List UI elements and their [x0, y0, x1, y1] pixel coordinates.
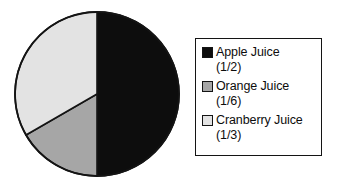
legend-label-orange-juice: Orange Juice [216, 79, 289, 93]
legend-item-apple-juice: Apple Juice (1/2) [202, 45, 321, 75]
legend-item-cranberry-juice: Cranberry Juice (1/3) [202, 113, 321, 143]
legend-item-orange-juice: Orange Juice (1/6) [202, 79, 321, 109]
pie-slice-apple-juice [97, 12, 179, 176]
pie-chart-graphic [14, 8, 180, 180]
legend-label-cranberry-juice: Cranberry Juice [216, 113, 303, 127]
legend-label-apple-juice: Apple Juice [216, 45, 280, 59]
legend-fraction-cranberry-juice: (1/3) [216, 128, 321, 143]
legend-swatch-cranberry-juice [202, 115, 213, 126]
chart-legend: Apple Juice (1/2) Orange Juice (1/6) Cra… [195, 38, 322, 156]
pie-chart-figure: Apple Juice (1/2) Orange Juice (1/6) Cra… [0, 0, 339, 187]
legend-fraction-apple-juice: (1/2) [216, 60, 321, 75]
legend-fraction-orange-juice: (1/6) [216, 94, 321, 109]
legend-swatch-apple-juice [202, 47, 213, 58]
legend-swatch-orange-juice [202, 81, 213, 92]
